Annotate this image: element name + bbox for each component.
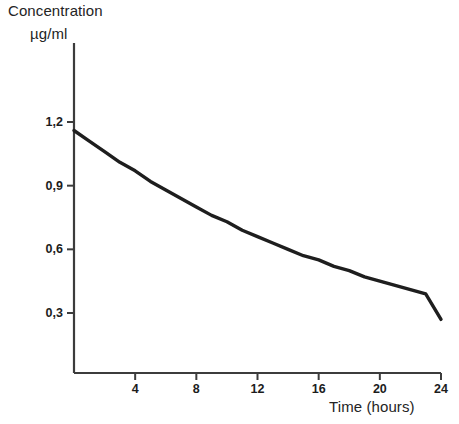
concentration-time-chart: Concentration µg/ml Time (hours) 0,30,60… [0,0,459,424]
plot-area [0,0,459,424]
concentration-curve [74,130,441,319]
